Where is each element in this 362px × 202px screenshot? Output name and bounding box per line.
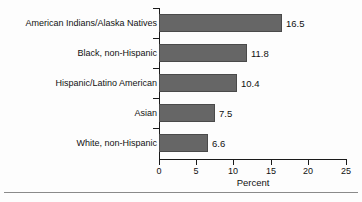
category-label: White, non-Hispanic <box>4 138 157 149</box>
x-axis-tick <box>159 160 160 165</box>
category-label: Hispanic/Latino American <box>4 78 157 89</box>
x-axis-tick-label: 10 <box>221 166 245 177</box>
x-axis-title: Percent <box>159 177 347 188</box>
footer-divider <box>4 192 358 193</box>
bar <box>159 44 247 62</box>
y-axis-tick <box>153 128 159 129</box>
x-axis-tick-label: 5 <box>184 166 208 177</box>
y-axis-tick <box>153 98 159 99</box>
y-axis-tick <box>153 8 159 9</box>
bar <box>159 134 208 152</box>
x-axis-tick-label: 25 <box>334 166 358 177</box>
bar-value-label: 7.5 <box>219 108 232 119</box>
x-axis-tick <box>233 160 234 165</box>
bar-chart-plot-area: 0 5 10 15 20 25 American Indians/Alaska … <box>0 0 362 202</box>
bar <box>159 74 237 92</box>
bar-value-label: 6.6 <box>212 138 225 149</box>
chart-figure: 0 5 10 15 20 25 American Indians/Alaska … <box>0 0 362 202</box>
x-axis-tick <box>196 160 197 165</box>
category-label: Asian <box>4 108 157 119</box>
bar-value-label: 11.8 <box>251 48 269 59</box>
category-label: American Indians/Alaska Natives <box>4 18 157 29</box>
bar-value-label: 16.5 <box>286 18 305 29</box>
y-axis-tick <box>153 38 159 39</box>
x-axis-tick-label: 20 <box>296 166 320 177</box>
x-axis-tick <box>271 160 272 165</box>
x-axis-tick <box>308 160 309 165</box>
x-axis-line <box>159 159 347 160</box>
y-axis-tick <box>153 68 159 69</box>
x-axis-tick <box>346 160 347 165</box>
bar <box>159 104 215 122</box>
x-axis-tick-label: 15 <box>259 166 283 177</box>
category-label: Black, non-Hispanic <box>4 48 157 59</box>
bar-value-label: 10.4 <box>241 78 260 89</box>
x-axis-tick-label: 0 <box>147 166 171 177</box>
bar <box>159 14 282 32</box>
